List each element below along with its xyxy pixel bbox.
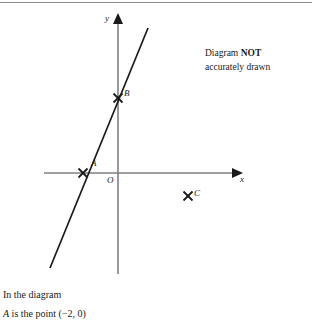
note-line-1-emphasis: NOT: [241, 48, 262, 58]
plotted-straight-line: [50, 28, 148, 268]
y-axis-arrowhead: [113, 13, 123, 24]
point-label-b: B: [124, 88, 130, 98]
caption-line-1: In the diagram: [3, 285, 233, 304]
y-axis-label: y: [105, 13, 109, 23]
x-axis-label: x: [240, 174, 244, 184]
origin-label: O: [107, 175, 114, 185]
caption-line-2: A is the point (−2, 0): [3, 304, 233, 323]
coordinate-diagram: y x O A B C Diagram NOT accurately drawn: [0, 0, 312, 285]
note-line-1-prefix: Diagram: [205, 48, 241, 58]
point-label-c: C: [194, 188, 200, 198]
diagram-page: y x O A B C Diagram NOT accurately drawn…: [0, 0, 312, 327]
point-marker-c: [184, 192, 193, 201]
note-line-1: Diagram NOT: [205, 46, 309, 60]
question-caption: In the diagram A is the point (−2, 0): [3, 285, 233, 323]
note-line-2: accurately drawn: [205, 60, 309, 74]
caption-point-coords: is the point (−2, 0): [9, 308, 86, 319]
point-label-a: A: [91, 158, 97, 168]
coordinate-axes-svg: [0, 0, 312, 285]
not-to-scale-note: Diagram NOT accurately drawn: [205, 46, 309, 74]
